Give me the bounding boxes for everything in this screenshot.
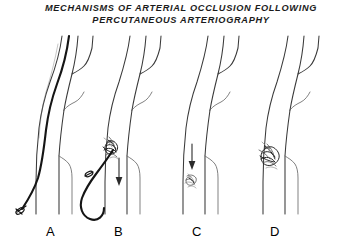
- figure-root: MECHANISMS OF ARTERIAL OCCLUSION FOLLOWI…: [0, 0, 362, 244]
- panel-d-vessel: [263, 36, 319, 214]
- panel-d-occlusive-clot: [259, 142, 279, 169]
- panel-d-artwork: D: [0, 0, 362, 244]
- panel-label-d: D: [270, 224, 280, 239]
